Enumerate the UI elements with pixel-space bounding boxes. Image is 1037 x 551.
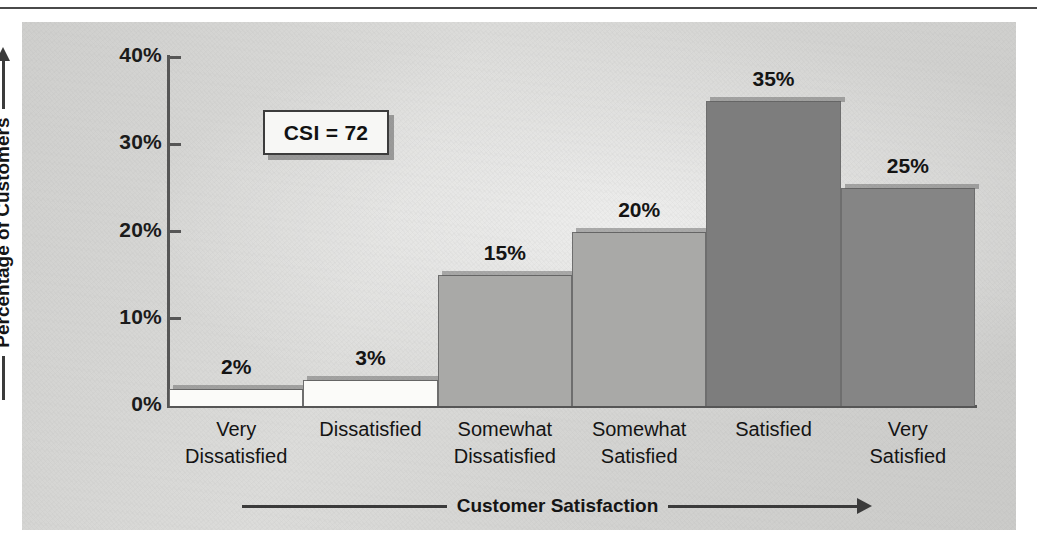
y-axis-line-segment — [2, 356, 5, 400]
bar — [169, 389, 303, 406]
page-top-rule — [0, 7, 1037, 9]
figure-root: 0%10%20%30%40% Percentage of Customers 2… — [0, 0, 1037, 551]
bar — [706, 101, 840, 406]
x-axis-title-label: Customer Satisfaction — [457, 495, 659, 517]
bar — [438, 275, 572, 406]
bar-value-label: 3% — [303, 346, 437, 370]
x-axis-category-label: Very Dissatisfied — [169, 416, 303, 470]
y-axis-tick-label: 0% — [88, 392, 162, 416]
bar — [572, 232, 706, 407]
y-axis-tick-label: 30% — [88, 130, 162, 154]
x-axis-category-label: Somewhat Satisfied — [572, 416, 706, 470]
x-axis-line-segment-left — [242, 505, 447, 508]
bar-top-shadow — [173, 385, 307, 390]
csi-annotation-box: CSI = 72 — [263, 110, 389, 155]
csi-annotation-label: CSI = 72 — [284, 121, 369, 145]
y-axis-arrow-icon — [2, 60, 5, 109]
x-axis-arrow-icon — [668, 505, 858, 508]
bar-value-label: 35% — [706, 67, 840, 91]
bar-value-label: 25% — [841, 154, 975, 178]
x-axis-category-label: Satisfied — [706, 416, 840, 443]
y-axis-title: Percentage of Customers — [0, 60, 20, 400]
bar-value-label: 2% — [169, 355, 303, 379]
bar — [841, 188, 975, 406]
y-axis-tick-label: 40% — [88, 43, 162, 67]
bar-top-shadow — [307, 376, 441, 381]
y-axis-tick-label: 20% — [88, 218, 162, 242]
x-axis-category-labels: Very DissatisfiedDissatisfiedSomewhat Di… — [169, 416, 975, 482]
bar-top-shadow — [710, 97, 844, 102]
x-axis-category-label: Dissatisfied — [303, 416, 437, 443]
y-axis-tick-label: 10% — [88, 305, 162, 329]
bar-value-label: 20% — [572, 198, 706, 222]
bar-top-shadow — [576, 228, 710, 233]
x-axis-category-label: Very Satisfied — [841, 416, 975, 470]
bar-top-shadow — [845, 184, 979, 189]
x-axis-category-label: Somewhat Dissatisfied — [438, 416, 572, 470]
x-axis-title: Customer Satisfaction — [200, 495, 900, 517]
bar-value-label: 15% — [438, 241, 572, 265]
bar — [303, 380, 437, 406]
y-axis-title-label: Percentage of Customers — [0, 117, 14, 347]
bar-top-shadow — [442, 271, 576, 276]
